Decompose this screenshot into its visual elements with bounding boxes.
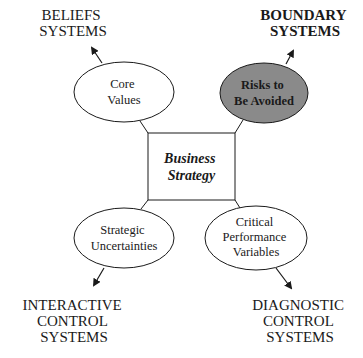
connector-bottom-left — [141, 200, 148, 209]
strategic-uncertainties-node — [74, 208, 174, 268]
connector-top-left — [140, 121, 148, 133]
arrow-boundary — [286, 51, 293, 64]
boundary-systems-label: BOUNDARY SYSTEMS — [260, 7, 349, 39]
core-values-node — [74, 62, 174, 122]
arrow-diagnostic — [276, 268, 291, 288]
levers-of-control-diagram: Business Strategy Core Values Risks to B… — [0, 0, 363, 358]
interactive-control-systems-label: INTERACTIVE CONTROL SYSTEMS — [23, 297, 126, 345]
connector-top-right — [235, 120, 243, 133]
business-strategy-box — [148, 133, 235, 200]
diagnostic-control-systems-label: DIAGNOSTIC CONTROL SYSTEMS — [252, 297, 347, 345]
arrow-interactive — [94, 268, 104, 285]
beliefs-systems-label: BELIEFS SYSTEMS — [39, 7, 107, 39]
connector-bottom-right — [235, 200, 240, 208]
risks-to-be-avoided-node — [220, 63, 308, 123]
arrow-beliefs — [92, 48, 102, 63]
